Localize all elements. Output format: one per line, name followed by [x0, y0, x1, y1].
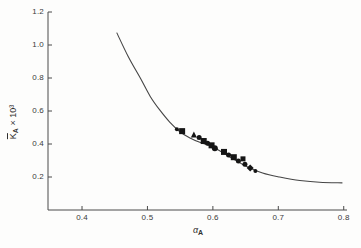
- data-point-diamond: [247, 165, 254, 172]
- x-tick-label: 0.6: [202, 213, 224, 223]
- y-tick-label: 0.2: [20, 172, 44, 182]
- data-point-triangle: [191, 131, 197, 137]
- adsorption-constant-chart: KA × 10³ αA 0.40.50.60.70.80.20.40.60.81…: [0, 0, 361, 248]
- x-tick-label: 0.5: [136, 213, 158, 223]
- plot-area: [0, 0, 361, 248]
- data-point-circle: [175, 127, 179, 131]
- x-axis-label: αA: [170, 225, 226, 236]
- y-tick-label: 0.4: [20, 139, 44, 149]
- data-point-square: [240, 156, 245, 161]
- x-tick-label: 0.4: [71, 213, 93, 223]
- y-tick-label: 1.0: [20, 40, 44, 50]
- y-axis-symbol-subscript: A: [12, 128, 19, 133]
- data-point-square: [231, 154, 237, 160]
- y-tick-label: 0.6: [20, 106, 44, 116]
- y-axis-label: KA × 10³: [8, 77, 20, 167]
- data-point-square: [221, 149, 227, 155]
- x-tick-label: 0.7: [267, 213, 289, 223]
- y-axis-symbol: K: [8, 133, 18, 139]
- data-point-circle: [253, 169, 257, 173]
- y-tick-label: 1.2: [20, 7, 44, 17]
- data-point-circle: [242, 162, 247, 167]
- fit-curve: [117, 33, 343, 183]
- data-point-circle: [226, 153, 231, 158]
- data-point-circle: [236, 158, 241, 163]
- y-tick-label: 0.8: [20, 73, 44, 83]
- y-axis-scale-factor: × 10³: [8, 105, 18, 128]
- data-point-square: [179, 128, 185, 134]
- x-axis-symbol-subscript: A: [198, 229, 203, 236]
- x-tick-label: 0.8: [333, 213, 355, 223]
- data-point-circle: [212, 145, 218, 151]
